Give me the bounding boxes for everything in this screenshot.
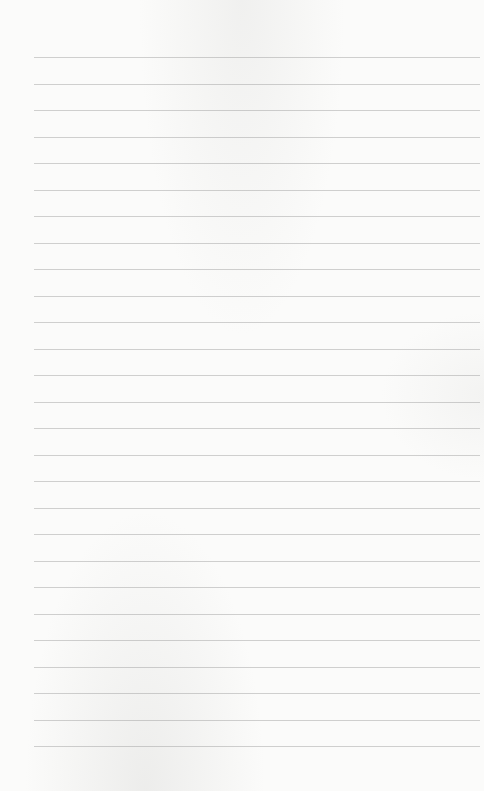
ruled-line	[34, 455, 480, 456]
ruled-line	[34, 402, 480, 403]
ruled-line	[34, 322, 480, 323]
ruled-line	[34, 243, 480, 244]
ruled-line	[34, 375, 480, 376]
ruled-line	[34, 428, 480, 429]
ruled-line	[34, 693, 480, 694]
ruled-line	[34, 57, 480, 58]
ruled-line	[34, 481, 480, 482]
ruled-line	[34, 84, 480, 85]
ruled-line	[34, 667, 480, 668]
ruled-line	[34, 163, 480, 164]
ruled-line	[34, 137, 480, 138]
ruled-line	[34, 110, 480, 111]
ruled-line	[34, 746, 480, 747]
ruled-line	[34, 720, 480, 721]
ruled-line	[34, 640, 480, 641]
ruled-line	[34, 296, 480, 297]
ruled-line	[34, 216, 480, 217]
ruled-line	[34, 508, 480, 509]
ruled-line	[34, 190, 480, 191]
ruled-line	[34, 614, 480, 615]
ruled-line	[34, 561, 480, 562]
ruled-line	[34, 269, 480, 270]
ruled-line	[34, 349, 480, 350]
ruled-line	[34, 534, 480, 535]
ruled-line	[34, 587, 480, 588]
ruled-paper-sheet	[0, 0, 484, 791]
